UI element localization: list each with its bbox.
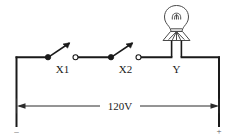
switch-x1-label: X1 [56,63,69,75]
lamp-y-symbol [163,6,190,58]
dimension-arrow-left [17,103,26,109]
switch-x1-open-contact [73,55,78,60]
switch-x2-pivot-terminal [108,55,113,60]
switch-x1-pivot-terminal [45,55,50,60]
switch-x2-label: X2 [119,63,132,75]
lamp-socket-hatch [169,32,185,40]
voltage-label: 120V [108,100,133,112]
circuit-diagram-canvas: X1 X2 Y 120V – + [0,0,236,136]
switch-x2[interactable] [108,43,141,60]
switch-x1[interactable] [45,43,78,60]
switch-x2-open-contact [136,55,141,60]
positive-terminal-label: + [216,126,221,136]
lamp-y-label: Y [173,63,181,75]
negative-terminal-label: – [13,126,19,136]
circuit-svg: X1 X2 Y 120V – + [0,0,236,136]
dimension-arrow-right [211,103,220,109]
voltage-dimension: 120V [17,99,220,114]
